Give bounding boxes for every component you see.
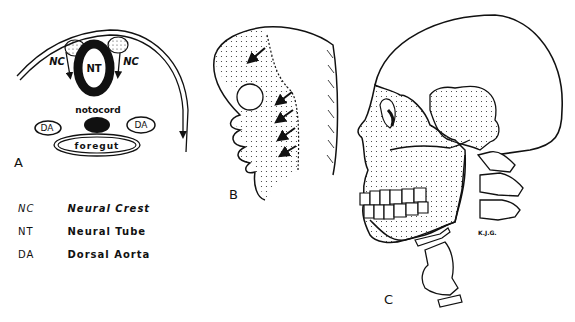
panel-c-diagram: K.J.G.: [330, 10, 575, 322]
legend-abbr: NC: [18, 203, 63, 214]
legend-item-da: DA Dorsal Aorta: [18, 249, 150, 260]
panel-a-diagram: NT NC NC notocord DA DA foregut: [0, 0, 200, 180]
label-nt: NT: [86, 63, 101, 74]
label-foregut: foregut: [75, 141, 120, 151]
eye-placode: [237, 84, 263, 110]
panel-label-c: C: [384, 292, 393, 307]
legend-text: Neural Crest: [67, 203, 150, 214]
notocord: [84, 117, 110, 133]
legend-item-nc: NC Neural Crest: [18, 203, 150, 214]
label-da-right: DA: [135, 120, 149, 130]
label-notocord: notocord: [75, 105, 120, 115]
label-nc-right: NC: [123, 56, 139, 67]
panel-label-a: A: [14, 155, 23, 170]
panel-b-diagram: [195, 0, 345, 210]
legend-text: Dorsal Aorta: [67, 249, 150, 260]
label-da-left: DA: [41, 123, 55, 133]
larynx: [422, 242, 458, 295]
legend-abbr: NT: [18, 226, 63, 237]
label-nc-left: NC: [49, 56, 65, 67]
panel-label-b: B: [229, 187, 238, 202]
cervical-vertebrae: [478, 152, 523, 220]
legend-abbr: DA: [18, 249, 63, 260]
legend-text: Neural Tube: [67, 226, 146, 237]
legend-item-nt: NT Neural Tube: [18, 226, 146, 237]
neural-crest-right: [108, 37, 128, 53]
artist-signature: K.J.G.: [478, 229, 497, 237]
teeth: [360, 188, 428, 219]
